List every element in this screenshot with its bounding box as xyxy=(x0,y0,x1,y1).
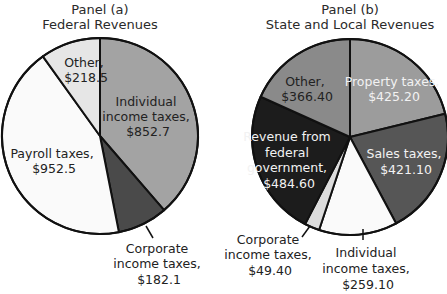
panel-b-subtitle: State and Local Revenues xyxy=(266,17,435,32)
label-corporate-b: Corporate income taxes, $49.40 xyxy=(224,232,316,278)
leader-corporate-a xyxy=(146,226,153,238)
label-other-b: Other, $366.40 xyxy=(281,74,333,104)
panel-b: Panel (b) State and Local Revenues Other… xyxy=(224,2,447,292)
panel-a: Panel (a) Federal Revenues Other, $218.5… xyxy=(2,2,205,287)
label-individual-b: Individual income taxes, $259.10 xyxy=(322,245,414,292)
label-corporate-a: Corporate income taxes, $182.1 xyxy=(113,241,205,287)
panel-a-subtitle: Federal Revenues xyxy=(42,17,158,32)
label-other-a: Other, $218.5 xyxy=(64,55,108,85)
panel-b-title: Panel (b) xyxy=(321,2,379,17)
panel-a-title: Panel (a) xyxy=(71,2,128,17)
revenue-pie-charts: Panel (a) Federal Revenues Other, $218.5… xyxy=(0,0,447,294)
